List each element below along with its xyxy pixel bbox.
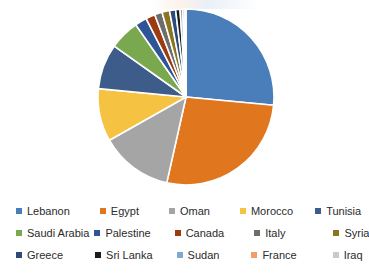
legend-item-egypt[interactable]: Egypt: [100, 200, 139, 222]
legend-swatch-icon: [100, 208, 106, 214]
legend-swatch-icon: [177, 252, 183, 258]
legend-swatch-icon: [95, 252, 101, 258]
legend-swatch-icon: [16, 208, 22, 214]
legend-row-3: Greece Sri Lanka Sudan France Iraq: [0, 244, 362, 266]
legend-item-morocco[interactable]: Morocco: [240, 200, 293, 222]
legend-swatch-icon: [175, 230, 181, 236]
legend-swatch-icon: [16, 230, 22, 236]
legend-label: Syria: [344, 228, 369, 239]
legend-label: Sudan: [188, 250, 220, 261]
legend-item-canada[interactable]: Canada: [175, 222, 225, 244]
legend-label: Egypt: [111, 206, 139, 217]
pie-svg: [0, 0, 362, 195]
legend-label: Lebanon: [27, 206, 70, 217]
legend-label: Italy: [265, 228, 285, 239]
legend-item-france[interactable]: France: [251, 244, 296, 266]
pie-slice-iraq[interactable]: [185, 9, 186, 97]
legend-row-1: Lebanon Egypt Oman Morocco Tunisia: [0, 200, 362, 222]
legend-item-italy[interactable]: Italy: [254, 222, 285, 244]
legend-item-palestine[interactable]: Palestine: [94, 222, 150, 244]
legend-swatch-icon: [254, 230, 260, 236]
legend-label: Canada: [186, 228, 225, 239]
legend-label: Oman: [180, 206, 210, 217]
legend-swatch-icon: [333, 230, 339, 236]
legend-item-syria[interactable]: Syria: [333, 222, 369, 244]
legend-label: Morocco: [251, 206, 293, 217]
legend-item-sudan[interactable]: Sudan: [177, 244, 220, 266]
legend-swatch-icon: [94, 230, 100, 236]
legend-item-lebanon[interactable]: Lebanon: [16, 200, 70, 222]
legend-swatch-icon: [16, 252, 22, 258]
legend-item-iraq[interactable]: Iraq: [333, 244, 363, 266]
pie-slice-group: [98, 9, 274, 185]
legend-swatch-icon: [169, 208, 175, 214]
legend-label: Iraq: [344, 250, 363, 261]
legend-label: Saudi Arabia: [27, 228, 89, 239]
legend-swatch-icon: [315, 208, 321, 214]
legend-swatch-icon: [240, 208, 246, 214]
legend-item-oman[interactable]: Oman: [169, 200, 210, 222]
legend-item-tunisia[interactable]: Tunisia: [315, 200, 361, 222]
legend-item-sri-lanka[interactable]: Sri Lanka: [95, 244, 152, 266]
legend-label: Greece: [27, 250, 63, 261]
legend-label: Tunisia: [326, 206, 361, 217]
legend-label: France: [262, 250, 296, 261]
legend-swatch-icon: [333, 252, 339, 258]
legend-swatch-icon: [251, 252, 257, 258]
pie-slice-lebanon[interactable]: [186, 9, 274, 105]
legend-label: Sri Lanka: [106, 250, 152, 261]
legend-label: Palestine: [105, 228, 150, 239]
pie-plot-area: [0, 0, 362, 195]
legend-item-saudi-arabia[interactable]: Saudi Arabia: [16, 222, 89, 244]
legend-item-greece[interactable]: Greece: [16, 244, 63, 266]
legend-row-2: Saudi Arabia Palestine Canada Italy Syri…: [0, 222, 362, 244]
chart-legend: Lebanon Egypt Oman Morocco Tunisia: [0, 200, 362, 278]
